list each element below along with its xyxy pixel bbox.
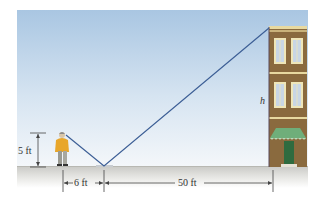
mirror-to-building-label: 50 ft (178, 178, 197, 188)
diagram-canvas (0, 0, 325, 205)
person-height-label: 5 ft (18, 146, 32, 156)
person-to-mirror-label: 6 ft (74, 178, 88, 188)
awning (270, 128, 306, 138)
building (269, 26, 307, 167)
ground (17, 166, 308, 188)
building-height-label: h (260, 96, 265, 106)
similar-triangles-diagram: 5 ft 6 ft 50 ft h (0, 0, 325, 205)
door (284, 141, 294, 165)
